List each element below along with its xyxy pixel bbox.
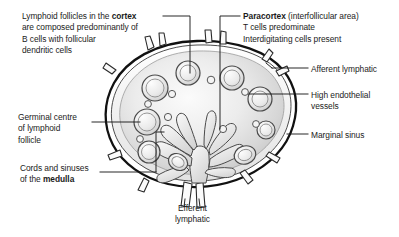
label-hev-line1: High endothelial [311,90,370,101]
lymph-node-diagram: Lymphoid follicles in the cortex are com… [0,0,399,237]
label-cortex-line1a: Lymphoid follicles in the [22,11,112,21]
label-afferent-line1: Afferent lymphatic [311,64,377,75]
label-cortex-keyword: cortex [112,11,137,21]
label-cords-and-sinuses: Cords and sinuses of the medulla [20,163,89,186]
label-paracortex-line1b: (interfollicular area) [286,11,359,21]
label-efferent-line2: lymphatic [175,214,210,225]
label-cortex-line2: are composed predominantly of [22,22,138,33]
label-cords-line1: Cords and sinuses [20,163,89,174]
label-marginal-line1: Marginal sinus [311,130,364,141]
label-paracortex-keyword: Paracortex [243,11,286,21]
label-marginal-sinus: Marginal sinus [311,130,364,141]
label-germinal-line2: of lymphoid [18,123,77,134]
label-germinal-line1: Germinal centre [18,112,77,123]
label-paracortex-line2: T cells predominate [243,22,359,33]
label-cortex-line4: dendritic cells [22,45,138,56]
label-efferent-line1: Efferent [175,203,210,214]
label-cortex-line3: B cells with follicular [22,34,138,45]
label-cords-line2a: of the [20,174,43,184]
label-cortex: Lymphoid follicles in the cortex are com… [22,11,138,57]
label-efferent-lymphatic: Efferent lymphatic [175,203,210,226]
label-germinal-line3: follicle [18,135,77,146]
label-afferent-lymphatic: Afferent lymphatic [311,64,377,75]
label-paracortex-line3: Interdigitating cells present [243,34,359,45]
label-germinal-centre: Germinal centre of lymphoid follicle [18,112,77,146]
label-paracortex: Paracortex (interfollicular area) T cell… [243,11,359,45]
label-high-endothelial-vessels: High endothelial vessels [311,90,370,113]
label-hev-line2: vessels [311,101,370,112]
label-cords-keyword: medulla [43,174,74,184]
